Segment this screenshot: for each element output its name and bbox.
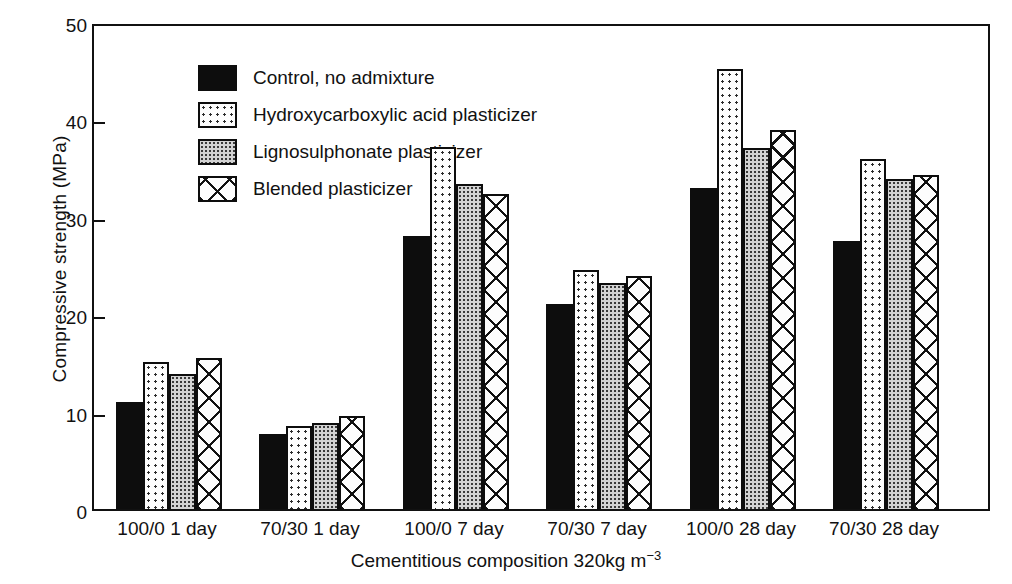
legend-swatch-icon — [198, 139, 237, 165]
legend-swatch-icon — [198, 102, 237, 128]
plot-area: 01020304050 Control, no admixtureHydroxy… — [92, 24, 990, 511]
bar — [430, 147, 457, 509]
bar — [339, 416, 366, 510]
x-axis-category-label: 70/30 7 day — [547, 518, 646, 540]
x-axis-category-label: 100/0 7 day — [404, 518, 503, 540]
x-axis-category-label: 100/0 1 day — [117, 518, 216, 540]
bar — [456, 184, 483, 509]
chart-figure: Compressive strength (MPa) 01020304050 C… — [0, 0, 1012, 584]
y-axis-tick-label: 0 — [39, 502, 87, 524]
x-axis-title-exponent: −3 — [646, 548, 661, 563]
y-axis-tick-mark — [94, 220, 105, 222]
bar — [546, 304, 573, 509]
x-axis-title: Cementitious composition 320kg m−3 — [0, 548, 1012, 572]
bar — [626, 276, 653, 509]
y-axis-title: Compressive strength (MPa) — [49, 9, 71, 509]
x-axis-title-text: Cementitious composition 320kg m — [351, 550, 647, 571]
bar — [573, 270, 600, 509]
y-axis-tick-label: 20 — [39, 307, 87, 329]
legend-item: Lignosulphonate plasticizer — [198, 133, 537, 170]
bar — [483, 194, 510, 509]
y-axis-tick-mark — [94, 415, 105, 417]
bar — [259, 434, 286, 509]
bar — [860, 159, 887, 509]
y-axis-tick-label: 50 — [39, 15, 87, 37]
y-axis-tick-label: 30 — [39, 210, 87, 232]
legend-item: Control, no admixture — [198, 59, 537, 96]
bar — [770, 130, 797, 509]
x-axis-category-label: 100/0 28 day — [686, 518, 796, 540]
bar — [717, 69, 744, 509]
bar — [286, 426, 313, 509]
bar — [690, 188, 717, 509]
bar — [116, 402, 143, 509]
bar — [833, 241, 860, 509]
x-axis-category-label: 70/30 28 day — [829, 518, 939, 540]
x-axis-category-label: 70/30 1 day — [260, 518, 359, 540]
bar — [196, 358, 223, 509]
bar — [913, 175, 940, 509]
legend-label: Blended plasticizer — [253, 178, 412, 200]
legend-swatch-icon — [198, 65, 237, 91]
legend-item: Hydroxycarboxylic acid plasticizer — [198, 96, 537, 133]
y-axis-tick-label: 40 — [39, 112, 87, 134]
y-axis-tick-mark — [94, 317, 105, 319]
bar — [403, 236, 430, 509]
bar — [599, 283, 626, 509]
legend-swatch-icon — [198, 176, 237, 202]
chart-legend: Control, no admixtureHydroxycarboxylic a… — [198, 59, 537, 207]
bar — [312, 423, 339, 509]
bar — [886, 179, 913, 509]
bar — [743, 148, 770, 509]
legend-label: Control, no admixture — [253, 67, 435, 89]
y-axis-tick-label: 10 — [39, 405, 87, 427]
legend-label: Hydroxycarboxylic acid plasticizer — [253, 104, 537, 126]
bar — [169, 374, 196, 509]
bar — [143, 362, 170, 509]
y-axis-tick-mark — [94, 122, 105, 124]
